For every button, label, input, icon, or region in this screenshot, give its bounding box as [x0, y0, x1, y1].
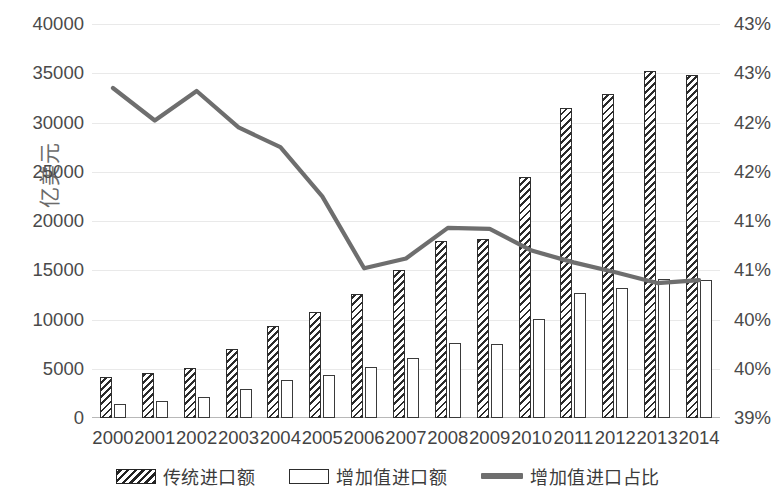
legend-label: 传统进口额 [163, 463, 256, 489]
x-axis-tick-label: 2004 [259, 425, 301, 451]
x-axis-tick-label: 2014 [678, 425, 720, 451]
y-axis-left-tick: 25000 [33, 163, 84, 182]
x-axis-tick-label: 2002 [176, 425, 218, 451]
y-axis-right-tick: 41% [734, 212, 771, 231]
x-axis-tick-label: 2005 [301, 425, 343, 451]
y-axis-right-tick: 40% [734, 360, 771, 379]
x-axis-tick-label: 2000 [92, 425, 134, 451]
x-axis-category-labels: 2000200120022003200420052006200720082009… [92, 425, 720, 451]
chart-legend: 传统进口额增加值进口额增加值进口占比 [0, 462, 775, 490]
x-axis-tick-label: 2003 [218, 425, 260, 451]
x-axis-tick-label: 2001 [134, 425, 176, 451]
y-axis-left-tick: 15000 [33, 261, 84, 280]
legend-item[interactable]: 增加值进口额 [289, 463, 447, 489]
legend-item[interactable]: 传统进口额 [116, 463, 256, 489]
y-axis-right-tick: 41% [734, 261, 771, 280]
x-axis-tick-label: 2010 [511, 425, 553, 451]
y-axis-right-tick: 42% [734, 114, 771, 133]
y-axis-left-tick: 5000 [43, 360, 84, 379]
y-axis-right-tick: 39% [734, 409, 771, 428]
y-axis-left-tick: 20000 [33, 212, 84, 231]
x-axis-tick-label: 2006 [343, 425, 385, 451]
plot-area [92, 24, 720, 418]
x-axis-tick-label: 2011 [552, 425, 594, 451]
chart-container: 亿美元 050001000015000200002500030000350004… [0, 0, 775, 491]
y-axis-right-tick: 40% [734, 311, 771, 330]
y-axis-left-tick: 0 [74, 409, 84, 428]
legend-label: 增加值进口占比 [530, 463, 660, 489]
y-axis-left-tick: 35000 [33, 64, 84, 83]
outline-bar-icon [289, 469, 329, 484]
y-axis-right-tick: 43% [734, 64, 771, 83]
y-axis-left-tick: 40000 [33, 15, 84, 34]
line-icon [481, 473, 523, 479]
legend-item[interactable]: 增加值进口占比 [481, 463, 660, 489]
y-axis-left-tick: 30000 [33, 114, 84, 133]
legend-label: 增加值进口额 [336, 463, 447, 489]
y-axis-right-tick: 42% [734, 163, 771, 182]
y-axis-left-tick: 10000 [33, 311, 84, 330]
hatched-bar-icon [116, 469, 156, 484]
value-share-line [92, 24, 720, 418]
x-axis-tick-label: 2007 [385, 425, 427, 451]
x-axis-tick-label: 2009 [469, 425, 511, 451]
x-axis-tick-label: 2008 [427, 425, 469, 451]
y-axis-right-tick: 43% [734, 15, 771, 34]
x-axis-tick-label: 2012 [594, 425, 636, 451]
x-axis-tick-label: 2013 [636, 425, 678, 451]
